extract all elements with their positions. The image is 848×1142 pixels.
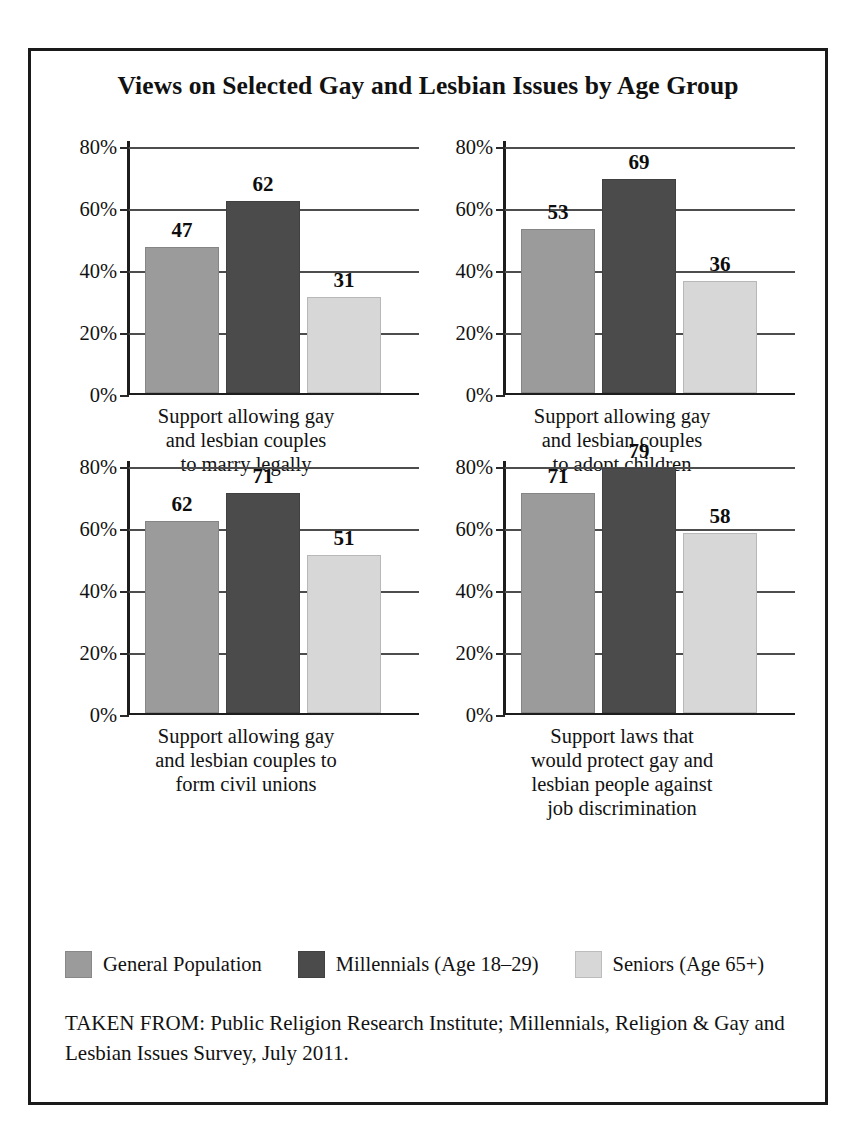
y-axis-tick	[496, 147, 505, 149]
y-axis-tick	[496, 395, 505, 397]
y-axis-tick-label: 60%	[455, 199, 493, 220]
bar-slot: 62	[145, 467, 219, 713]
panel-caption-line: Support allowing gay	[83, 405, 409, 429]
y-axis-tick	[120, 209, 129, 211]
chart-panel-3: 80%60%40%20%0%627151Support allowing gay…	[53, 449, 429, 769]
panel-caption-line: Support allowing gay	[83, 725, 409, 749]
y-axis-tick	[496, 591, 505, 593]
plot-area: 536936	[503, 147, 795, 395]
panel-caption-line: form civil unions	[83, 773, 409, 797]
panel-caption-line: job discrimination	[459, 797, 785, 821]
y-axis-tick	[120, 529, 129, 531]
panel-caption: Support allowing gayand lesbian couples …	[83, 725, 409, 797]
y-axis-labels: 80%60%40%20%0%	[437, 147, 499, 395]
plot-area: 717958	[503, 467, 795, 715]
y-axis-tick-label: 20%	[455, 323, 493, 344]
source-note: TAKEN FROM: Public Religion Research Ins…	[65, 1009, 795, 1069]
bar-value-label: 79	[602, 439, 676, 464]
bar-general-population	[145, 521, 219, 713]
plot-wrap: 80%60%40%20%0%476231	[61, 129, 419, 401]
y-axis-tick-label: 20%	[79, 323, 117, 344]
legend-item-millennials-age-18-29: Millennials (Age 18–29)	[298, 951, 539, 978]
bar-group: 476231	[145, 147, 401, 393]
bar-value-label: 62	[226, 172, 300, 197]
bar-value-label: 69	[602, 150, 676, 175]
bar-general-population	[521, 493, 595, 713]
y-axis-tick	[120, 395, 129, 397]
y-axis-line	[127, 461, 130, 715]
y-axis-tick	[496, 467, 505, 469]
y-axis-tick-label: 0%	[466, 705, 493, 726]
bar-value-label: 47	[145, 218, 219, 243]
bar-value-label: 53	[521, 200, 595, 225]
y-axis-tick	[496, 653, 505, 655]
y-axis-tick	[496, 715, 505, 717]
y-axis-line	[127, 141, 130, 395]
plot-wrap: 80%60%40%20%0%627151	[61, 449, 419, 721]
y-axis-tick-label: 80%	[455, 457, 493, 478]
plot-wrap: 80%60%40%20%0%717958	[437, 449, 795, 721]
plot-wrap: 80%60%40%20%0%536936	[437, 129, 795, 401]
y-axis-labels: 80%60%40%20%0%	[61, 147, 123, 395]
y-axis-labels: 80%60%40%20%0%	[437, 467, 499, 715]
bar-group: 627151	[145, 467, 401, 713]
chart-panel-2: 80%60%40%20%0%536936Support allowing gay…	[429, 129, 805, 449]
chart-legend: General PopulationMillennials (Age 18–29…	[65, 951, 807, 978]
legend-item-seniors-age-65: Seniors (Age 65+)	[575, 951, 765, 978]
bar-slot: 69	[602, 147, 676, 393]
bar-slot: 62	[226, 147, 300, 393]
y-axis-tick	[496, 271, 505, 273]
plot-area: 627151	[127, 467, 419, 715]
legend-label: General Population	[103, 953, 262, 976]
y-axis-tick	[120, 333, 129, 335]
y-axis-tick-label: 80%	[455, 137, 493, 158]
legend-swatch-icon	[65, 951, 92, 978]
bar-slot: 71	[226, 467, 300, 713]
bar-slot: 36	[683, 147, 757, 393]
y-axis-tick-label: 40%	[455, 261, 493, 282]
panel-caption-line: would protect gay and	[459, 749, 785, 773]
legend-item-general-population: General Population	[65, 951, 262, 978]
bar-seniors-age-65	[307, 555, 381, 713]
bar-seniors-age-65	[307, 297, 381, 393]
bar-millennials-age-18-29	[226, 201, 300, 393]
legend-label: Seniors (Age 65+)	[613, 953, 765, 976]
legend-swatch-icon	[298, 951, 325, 978]
legend-label: Millennials (Age 18–29)	[336, 953, 539, 976]
panel-caption-line: Support allowing gay	[459, 405, 785, 429]
panel-caption: Support laws thatwould protect gay andle…	[459, 725, 785, 821]
bar-slot: 79	[602, 467, 676, 713]
panel-caption-line: lesbian people against	[459, 773, 785, 797]
y-axis-tick	[120, 591, 129, 593]
bar-slot: 58	[683, 467, 757, 713]
page-title: Views on Selected Gay and Lesbian Issues…	[31, 71, 825, 101]
y-axis-tick	[120, 271, 129, 273]
bar-value-label: 31	[307, 268, 381, 293]
bar-value-label: 36	[683, 252, 757, 277]
y-axis-tick-label: 40%	[455, 581, 493, 602]
y-axis-tick	[120, 147, 129, 149]
bar-slot: 31	[307, 147, 381, 393]
bar-value-label: 58	[683, 504, 757, 529]
bar-value-label: 51	[307, 526, 381, 551]
y-axis-tick	[120, 653, 129, 655]
bar-general-population	[521, 229, 595, 393]
figure-frame: Views on Selected Gay and Lesbian Issues…	[28, 48, 828, 1105]
y-axis-tick	[496, 209, 505, 211]
bar-millennials-age-18-29	[602, 179, 676, 393]
bar-seniors-age-65	[683, 533, 757, 713]
bar-group: 536936	[521, 147, 777, 393]
y-axis-tick-label: 40%	[79, 261, 117, 282]
bar-value-label: 71	[521, 464, 595, 489]
bar-general-population	[145, 247, 219, 393]
y-axis-tick	[120, 715, 129, 717]
y-axis-tick-label: 80%	[79, 457, 117, 478]
bar-millennials-age-18-29	[602, 468, 676, 713]
panel-grid: 80%60%40%20%0%476231Support allowing gay…	[53, 129, 805, 769]
y-axis-tick	[120, 467, 129, 469]
y-axis-tick-label: 20%	[455, 643, 493, 664]
y-axis-tick-label: 20%	[79, 643, 117, 664]
bar-value-label: 62	[145, 492, 219, 517]
y-axis-tick-label: 0%	[466, 385, 493, 406]
bar-slot: 53	[521, 147, 595, 393]
